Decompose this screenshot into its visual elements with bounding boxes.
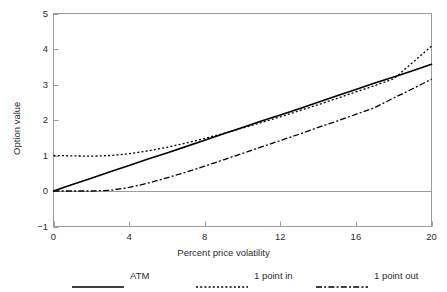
y-tick-label: 5 <box>26 9 48 19</box>
x-tick-label: 16 <box>336 232 376 242</box>
y-tick-label: 3 <box>26 80 48 90</box>
chart-legend: ATM1 point in1 point out <box>0 269 447 285</box>
y-tick-label: −1 <box>26 222 48 232</box>
y-axis-title: Option value <box>12 102 22 155</box>
x-axis-title: Percent price volatility <box>0 248 447 258</box>
y-tick-label: 2 <box>26 115 48 125</box>
series-line-1-point-out <box>54 79 432 191</box>
series-line-atm <box>54 64 432 191</box>
legend-key-dotted-icon <box>196 275 248 278</box>
x-tick-label: 0 <box>34 232 74 242</box>
legend-key-solid-icon <box>72 275 124 278</box>
y-axis-ticks <box>54 15 59 228</box>
data-series-group <box>54 46 432 191</box>
x-axis-ticks <box>55 222 433 227</box>
y-tick-label: 0 <box>26 186 48 196</box>
plot-frame <box>54 14 432 227</box>
legend-label: 1 point out <box>374 271 418 281</box>
y-tick-label: 1 <box>26 151 48 161</box>
series-line-1-point-in <box>54 46 432 156</box>
x-tick-label: 20 <box>412 232 447 242</box>
y-tick-label: 4 <box>26 44 48 54</box>
x-tick-label: 4 <box>109 232 149 242</box>
x-tick-label: 8 <box>185 232 225 242</box>
x-tick-label: 12 <box>260 232 300 242</box>
legend-key-dashdot-icon <box>316 275 368 278</box>
legend-label: 1 point in <box>254 271 293 281</box>
chart-figure: −1012345 048121620 Option value Percent … <box>0 0 447 292</box>
legend-label: ATM <box>130 271 149 281</box>
